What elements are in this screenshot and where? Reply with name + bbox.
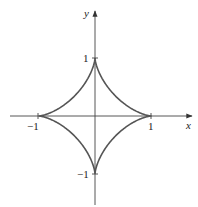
x-tick-label-1: 1 (148, 120, 154, 132)
y-axis-label: y (83, 7, 89, 19)
x-axis-label: x (185, 119, 191, 131)
y-tick-label-neg1: −1 (77, 168, 89, 180)
y-tick-label-1: 1 (83, 52, 89, 64)
x-tick-label-neg1: −1 (27, 120, 39, 132)
astroid-diagram: y x 1 −1 1 −1 (0, 0, 198, 207)
